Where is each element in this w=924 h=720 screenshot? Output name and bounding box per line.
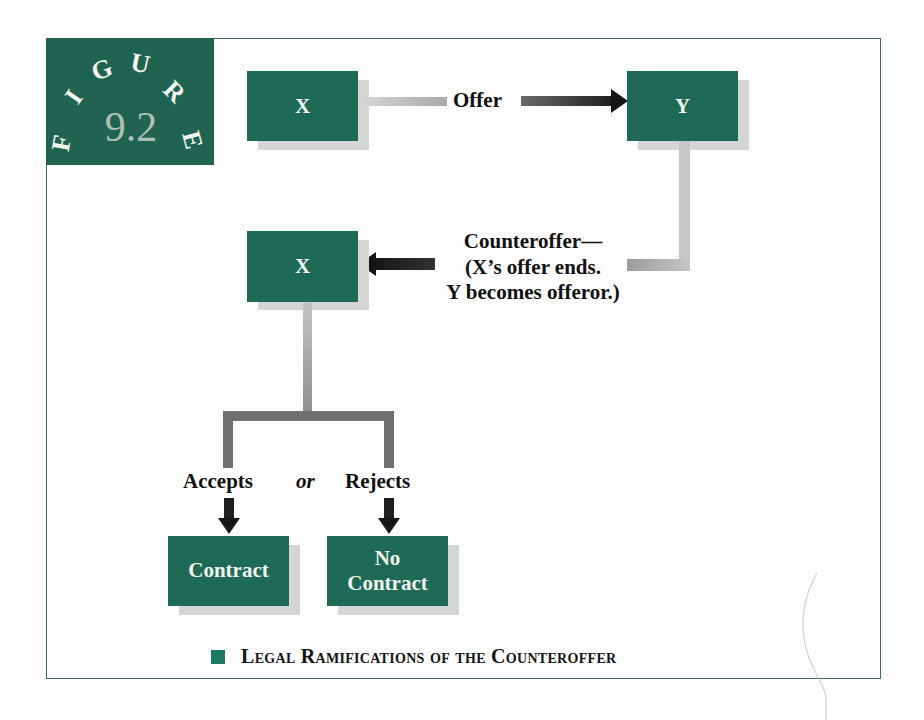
accepts-arrow-shaft xyxy=(224,498,234,520)
node-label: X xyxy=(295,94,310,119)
badge-letter-u: U xyxy=(126,49,155,79)
branch-right-leg xyxy=(384,411,394,468)
node-label-line-1: No xyxy=(375,546,401,571)
counteroffer-arrow-shaft xyxy=(374,258,435,270)
arrow-down-icon xyxy=(378,518,400,534)
node-offeree-y: Y xyxy=(627,71,738,141)
scan-artifact-line xyxy=(790,570,850,720)
offer-connector-left xyxy=(360,97,447,106)
arrow-down-icon xyxy=(218,518,240,534)
counteroffer-line-1: Counteroffer— xyxy=(433,229,633,255)
counteroffer-connector-horizontal xyxy=(627,259,690,271)
branch-crossbar xyxy=(223,411,394,421)
arrow-right-icon xyxy=(611,89,628,113)
caption-square-icon xyxy=(211,650,225,664)
node-no-contract: No Contract xyxy=(327,536,448,606)
node-label: Contract xyxy=(188,558,268,583)
node-contract: Contract xyxy=(168,536,289,606)
badge-letter-g: G xyxy=(86,54,117,87)
badge-letter-f: F xyxy=(47,129,77,157)
branch-stem xyxy=(303,302,312,414)
node-offeror-x: X xyxy=(247,71,358,141)
node-label: Y xyxy=(675,94,690,119)
counteroffer-connector-vertical xyxy=(679,141,690,271)
rejects-label: Rejects xyxy=(345,469,410,495)
counteroffer-label: Counteroffer— (X’s offer ends. Y becomes… xyxy=(433,229,633,306)
figure-caption: Legal Ramifications of the Counteroffer xyxy=(211,645,616,668)
accepts-label: Accepts xyxy=(183,469,253,495)
rejects-arrow-shaft xyxy=(384,498,394,520)
counteroffer-line-3: Y becomes offeror.) xyxy=(433,280,633,306)
offer-label: Offer xyxy=(453,88,502,114)
node-counter-x: X xyxy=(247,231,358,302)
badge-letter-e: E xyxy=(176,125,207,155)
badge-letter-i: I xyxy=(56,80,91,115)
branch-left-leg xyxy=(223,411,233,468)
figure-number: 9.2 xyxy=(96,106,166,148)
badge-letter-r: R xyxy=(156,74,191,109)
figure-badge: F I G U R E 9.2 xyxy=(46,38,214,165)
caption-text: Legal Ramifications of the Counteroffer xyxy=(241,645,616,668)
node-label: X xyxy=(295,254,310,279)
node-label-line-2: Contract xyxy=(347,571,427,596)
counteroffer-line-2: (X’s offer ends. xyxy=(433,255,633,281)
offer-arrow-shaft xyxy=(521,96,614,106)
or-label: or xyxy=(296,469,315,495)
